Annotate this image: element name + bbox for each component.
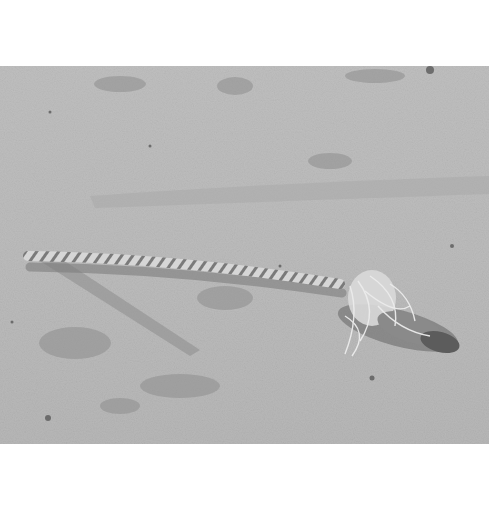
photo-illustration bbox=[0, 66, 489, 444]
rope-on-sand-photo bbox=[0, 66, 489, 444]
